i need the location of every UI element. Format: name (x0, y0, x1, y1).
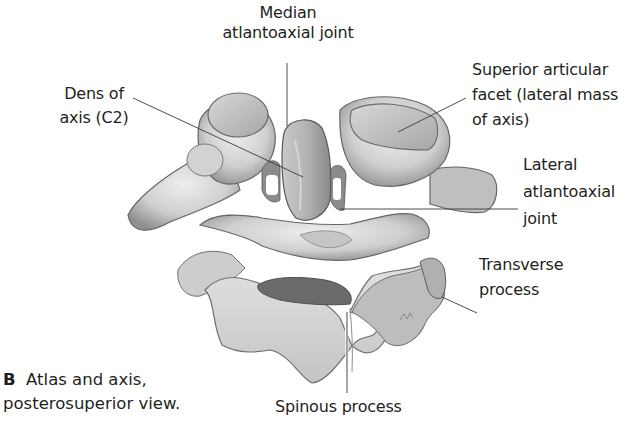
label-spinous-process: Spinous process (275, 396, 402, 418)
caption-title: Atlas and axis, (26, 370, 147, 389)
label-line: joint (523, 208, 615, 230)
label-superior-articular-facet: Superior articular facet (lateral mass o… (472, 59, 618, 131)
label-line: of axis) (472, 109, 618, 131)
label-line: Lateral (523, 154, 615, 176)
label-line: process (479, 279, 563, 301)
axis-c2-bone (178, 251, 446, 383)
anatomy-figure: Median atlantoaxial joint Dens of axis (… (0, 0, 630, 426)
label-line: Spinous process (275, 396, 402, 418)
label-line: Superior articular (472, 59, 618, 81)
caption-line-1: B Atlas and axis, (3, 368, 180, 392)
label-lateral-atlantoaxial-joint: Lateral atlantoaxial joint (523, 154, 615, 230)
label-line: atlantoaxial joint (218, 22, 358, 44)
figure-caption: B Atlas and axis, posterosuperior view. (3, 368, 180, 416)
leader-line-transverse-process (442, 297, 477, 313)
label-transverse-process: Transverse process (479, 254, 563, 301)
label-line: Dens of (52, 83, 136, 105)
dens-of-axis-bone (282, 120, 331, 220)
label-dens-of-axis: Dens of axis (C2) (52, 83, 136, 129)
caption-letter: B (3, 370, 16, 389)
label-line: facet (lateral mass (472, 84, 618, 106)
label-line: Transverse (479, 254, 563, 276)
label-median-atlantoaxial-joint: Median atlantoaxial joint (218, 2, 358, 44)
label-line: Median (218, 2, 358, 24)
label-line: atlantoaxial (523, 181, 615, 203)
caption-line-2: posterosuperior view. (3, 392, 180, 416)
label-line: axis (C2) (52, 107, 136, 129)
